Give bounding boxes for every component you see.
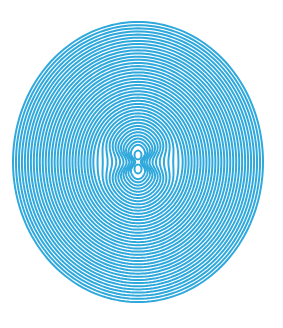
core-loop [135,165,142,174]
ring [43,54,234,271]
rings-group [13,22,263,302]
ring [73,85,204,239]
concentric-rings-artwork [0,0,283,328]
core-loop [135,151,142,160]
ring [13,22,263,302]
ring [90,104,185,220]
